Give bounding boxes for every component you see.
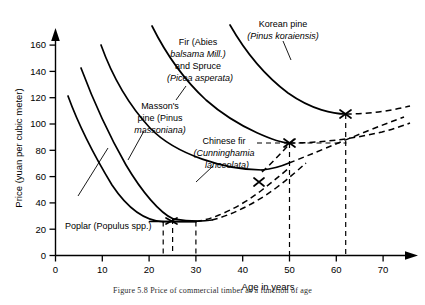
annotation-poplar-line1: Poplar (Populus spp.) xyxy=(65,221,152,231)
annotation-chinese-fir-line1: Chinese fir xyxy=(202,136,245,146)
curve-chinese-fir-dashed xyxy=(289,117,404,163)
optimum-guides xyxy=(163,114,346,255)
annotation-massons-line2: pine (Pinus xyxy=(137,113,183,123)
curve-massons-solid xyxy=(81,68,173,219)
annotation-fir-spruce-line3: and Spruce xyxy=(175,61,221,71)
annotation-fir-spruce: Fir (Abies balsama Mill.) and Spruce (Pi… xyxy=(167,37,233,83)
cross-poplar-dashed xyxy=(254,178,264,186)
x-tick-label-20: 20 xyxy=(144,264,155,275)
y-tick-label-100: 100 xyxy=(30,118,46,129)
y-tick-label-80: 80 xyxy=(35,145,46,156)
y-tick-label-120: 120 xyxy=(30,92,46,103)
leader-massons xyxy=(128,131,144,160)
annotation-fir-spruce-line1: Fir (Abies xyxy=(179,37,218,47)
x-tick-label-60: 60 xyxy=(331,264,342,275)
annotation-korean-pine-line2: (Pinus koraiensis) xyxy=(247,31,319,41)
figure-root: 0 20 40 60 80 100 120 140 160 0 10 20 30 xyxy=(0,0,425,305)
annotation-poplar: Poplar (Populus spp.) xyxy=(65,221,152,231)
x-tick-label-30: 30 xyxy=(191,264,202,275)
y-tick-label-40: 40 xyxy=(35,197,46,208)
y-ticks xyxy=(50,45,56,255)
annotation-chinese-fir-line2: (Cunninghamia xyxy=(193,148,254,158)
optimum-cross-marks xyxy=(166,110,351,224)
annotation-massons-line1: Masson's xyxy=(141,101,179,111)
x-tick-label-50: 50 xyxy=(284,264,295,275)
x-tick-labels: 0 10 20 30 40 50 60 70 xyxy=(53,264,389,275)
y-tick-label-160: 160 xyxy=(30,39,46,50)
annotation-fir-spruce-line2: balsama Mill.) xyxy=(170,49,226,59)
y-tick-label-140: 140 xyxy=(30,66,46,77)
x-tick-label-10: 10 xyxy=(97,264,108,275)
x-tick-label-70: 70 xyxy=(378,264,389,275)
annotation-chinese-fir-line3: lanceolata) xyxy=(205,160,249,170)
x-tick-label-40: 40 xyxy=(237,264,248,275)
curve-korean-pine-dashed xyxy=(346,106,410,114)
annotation-massons-pine: Masson's pine (Pinus massoniana) xyxy=(134,101,186,135)
annotation-korean-pine: Korean pine (Pinus koraiensis) xyxy=(247,19,319,41)
annotation-massons-line3: massoniana) xyxy=(134,125,186,135)
curve-poplar-dashed xyxy=(196,168,289,222)
annotation-korean-pine-line1: Korean pine xyxy=(259,19,308,29)
y-axis-title: Price (yuan per cubic meter) xyxy=(13,88,24,207)
y-tick-label-60: 60 xyxy=(35,171,46,182)
leader-fir-spruce xyxy=(176,86,186,100)
figure-caption: Figure 5.8 Price of commercial timber as… xyxy=(0,286,425,295)
y-tick-label-20: 20 xyxy=(35,224,46,235)
x-tick-label-0: 0 xyxy=(53,264,58,275)
price-vs-age-chart: 0 20 40 60 80 100 120 140 160 0 10 20 30 xyxy=(0,0,425,305)
leader-korean-pine xyxy=(283,41,291,60)
y-tick-label-0: 0 xyxy=(41,250,46,261)
x-ticks xyxy=(56,256,384,262)
y-tick-labels: 0 20 40 60 80 100 120 140 160 xyxy=(30,39,46,260)
y-axis-arrowhead xyxy=(51,28,60,41)
annotation-fir-spruce-line4: (Picea asperata) xyxy=(167,73,233,83)
annotation-chinese-fir: Chinese fir (Cunninghamia lanceolata) xyxy=(193,136,254,170)
curve-fir-spruce-dashed xyxy=(290,123,411,143)
x-axis-arrowhead xyxy=(405,251,418,260)
